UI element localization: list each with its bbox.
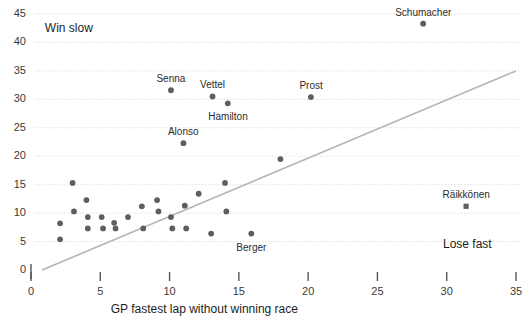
data-point — [125, 214, 131, 220]
y-tick-label: 25 — [0, 122, 26, 133]
data-point-berger — [248, 231, 254, 237]
x-tick-label: 0 — [16, 286, 46, 297]
y-tick-label: 5 — [0, 236, 26, 247]
y-tick-label: 40 — [0, 36, 26, 47]
point-label-alonso: Alonso — [168, 127, 199, 137]
y-tick-label: 0 — [0, 264, 26, 275]
data-point-prost — [308, 94, 314, 100]
x-axis-ticks — [31, 272, 516, 281]
data-point — [139, 203, 145, 209]
y-tick-label: 10 — [0, 207, 26, 218]
x-tick-label: 20 — [293, 286, 323, 297]
data-point — [223, 209, 229, 215]
y-tick-label: 15 — [0, 179, 26, 190]
data-points — [57, 21, 469, 242]
data-point — [85, 214, 91, 220]
data-point — [84, 197, 90, 203]
data-point — [111, 220, 117, 226]
data-point — [208, 231, 214, 237]
annotation-lose-fast: Lose fast — [443, 238, 492, 250]
data-point — [140, 226, 146, 232]
y-tick-label: 45 — [0, 8, 26, 19]
x-tick-label: 5 — [85, 286, 115, 297]
data-point-rikknen — [464, 204, 469, 209]
data-point — [222, 180, 228, 186]
data-point — [70, 180, 76, 186]
data-point — [57, 236, 63, 242]
data-point-vettel — [210, 94, 216, 100]
data-point-alonso — [181, 140, 187, 146]
point-label-senna: Senna — [156, 74, 185, 84]
gridlines — [35, 14, 522, 242]
data-point — [196, 191, 202, 197]
point-label-prost: Prost — [299, 81, 322, 91]
data-point — [100, 226, 106, 232]
data-point — [85, 226, 91, 232]
point-label-berger: Berger — [236, 243, 266, 253]
x-tick-label: 10 — [155, 286, 185, 297]
x-tick-label: 15 — [224, 286, 254, 297]
y-tick-label: 35 — [0, 65, 26, 76]
point-label-hamilton: Hamilton — [208, 112, 247, 122]
point-label-vettel: Vettel — [200, 80, 225, 90]
x-tick-label: 35 — [501, 286, 527, 297]
y-tick-label: 20 — [0, 150, 26, 161]
data-point — [278, 156, 284, 162]
data-point — [154, 197, 160, 203]
data-point — [168, 214, 174, 220]
x-axis-title: GP fastest lap without winning race — [111, 303, 298, 315]
data-point — [156, 209, 162, 215]
data-point — [169, 226, 175, 232]
point-label-rikknen: Räikkönen — [443, 190, 490, 200]
data-point — [183, 226, 189, 232]
data-point-schumacher — [420, 21, 426, 27]
data-point — [113, 226, 119, 232]
data-point — [182, 203, 188, 209]
x-tick-label: 30 — [432, 286, 462, 297]
annotation-win-slow: Win slow — [45, 22, 93, 34]
data-point — [99, 214, 105, 220]
point-label-schumacher: Schumacher — [395, 8, 451, 18]
data-point — [71, 209, 77, 215]
x-tick-label: 25 — [362, 286, 392, 297]
data-point-senna — [168, 87, 174, 93]
data-point-hamilton — [225, 100, 231, 106]
data-point — [57, 220, 63, 226]
y-tick-label: 30 — [0, 93, 26, 104]
